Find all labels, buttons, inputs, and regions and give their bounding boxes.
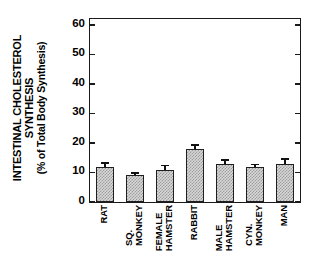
x-axis-label-female-hamster: FEMALEHAMSTER [149,203,179,274]
plot-area [89,18,301,203]
x-axis-label-rabbit: RABBIT [179,203,209,274]
y-axis-tick-labels: 0102030405060 [58,0,85,274]
y-axis-tick-right-50 [295,54,300,55]
bar-rat [96,167,115,202]
x-axis-label-line: RABBIT [189,205,199,240]
error-bar-cap-2 [161,165,169,166]
bar-sq-monkey [126,175,145,202]
error-bar-cap-6 [281,158,289,159]
x-axis-label-sq-monkey: SQ.MONKEY [119,203,149,274]
x-axis-label-man: MAN [269,203,299,274]
x-axis-label-line: RAT [99,205,109,224]
y-axis-tick-60 [90,24,95,25]
error-bar-cap-3 [191,144,199,145]
y-axis-title-line-3: (% of Total Body Synthesis) [35,34,47,180]
y-axis-tick-40 [90,83,95,84]
x-axis-label-cyn-monkey: CYN.MONKEY [239,203,269,274]
y-axis-label-50: 50 [61,47,85,59]
error-bar-cap-5 [251,164,259,165]
x-axis-label-male-hamster: MALEHAMSTER [209,203,239,274]
y-axis-tick-30 [90,113,95,114]
y-axis-tick-right-10 [295,172,300,173]
y-axis-tick-50 [90,54,95,55]
x-axis-label-line: MONKEY [134,205,144,246]
y-axis-label-30: 30 [61,106,85,118]
chart-figure: INTESTINAL CHOLESTEROL SYNTHESIS (% of T… [0,0,319,274]
y-axis-tick-20 [90,142,95,143]
y-axis-tick-right-60 [295,24,300,25]
x-axis-tick-labels: RATSQ.MONKEYFEMALEHAMSTERRABBITMALEHAMST… [89,203,301,274]
bar-man [276,164,295,202]
y-axis-title-line-2: SYNTHESIS [23,34,35,180]
bar-female-hamster [156,170,175,202]
y-axis-tick-right-20 [295,142,300,143]
y-axis-label-10: 10 [61,165,85,177]
y-axis-tick-10 [90,172,95,173]
error-bar-cap-0 [101,162,109,163]
x-axis-label-line: HAMSTER [224,205,234,251]
y-axis-label-40: 40 [61,77,85,89]
bar-male-hamster [216,164,235,202]
error-bar-cap-4 [221,159,229,160]
y-axis-label-0: 0 [61,195,85,207]
bar-rabbit [186,149,205,202]
x-axis-label-rat: RAT [89,203,119,274]
y-axis-tick-right-40 [295,83,300,84]
x-axis-label-line: HAMSTER [164,205,174,251]
y-axis-title-line-1: INTESTINAL CHOLESTEROL [11,34,23,180]
y-axis-label-20: 20 [61,136,85,148]
y-axis-tick-right-30 [295,113,300,114]
x-axis-label-line: MAN [279,205,289,226]
error-bar-cap-1 [131,172,139,173]
x-axis-label-line: MONKEY [254,205,264,246]
y-axis-title: INTESTINAL CHOLESTEROL SYNTHESIS (% of T… [0,0,58,215]
y-axis-label-60: 60 [61,18,85,30]
bar-cyn-monkey [246,167,265,202]
